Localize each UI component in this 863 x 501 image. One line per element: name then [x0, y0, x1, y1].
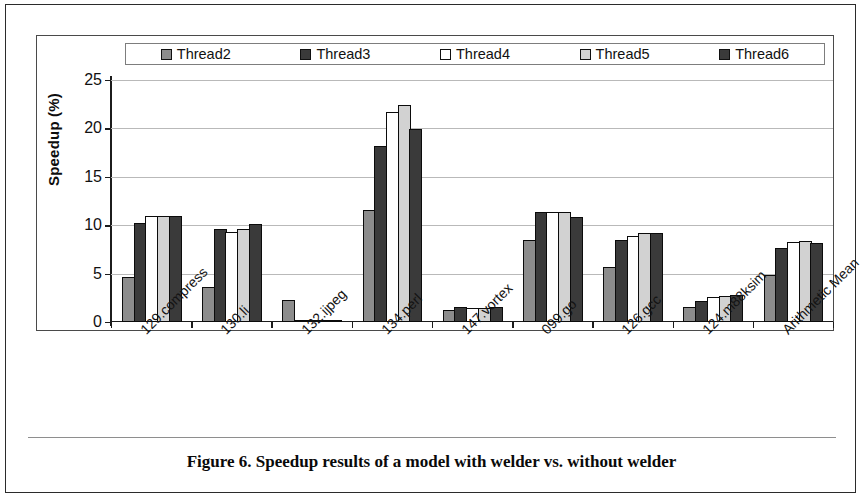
y-tick-label: 0 — [93, 313, 102, 331]
legend-item-thread6[interactable]: Thread6 — [719, 47, 789, 62]
bar-group — [512, 80, 592, 322]
y-tick-label: 15 — [84, 168, 102, 186]
y-tick-label: 5 — [93, 265, 102, 283]
legend-swatch-icon — [719, 49, 730, 60]
x-tick-mark — [833, 322, 834, 328]
legend-label: Thread5 — [596, 47, 650, 62]
legend-label: Thread6 — [735, 47, 789, 62]
caption-divider — [28, 437, 836, 438]
legend-item-thread5[interactable]: Thread5 — [580, 47, 650, 62]
legend-item-thread2[interactable]: Thread2 — [161, 47, 231, 62]
bar-group — [191, 80, 271, 322]
legend-label: Thread2 — [177, 47, 231, 62]
chart-container: Thread2Thread3Thread4Thread5Thread6 Spee… — [36, 35, 834, 331]
figure-caption: Figure 6. Speedup results of a model wit… — [6, 452, 857, 472]
bars-layer — [111, 80, 833, 322]
legend-swatch-icon — [440, 49, 451, 60]
y-tick-label: 20 — [84, 119, 102, 137]
legend-swatch-icon — [161, 49, 172, 60]
bar[interactable] — [282, 300, 295, 322]
chart-legend: Thread2Thread3Thread4Thread5Thread6 — [125, 43, 825, 65]
y-axis-title: Speedup (%) — [45, 93, 62, 186]
plot-area: 0510152025 — [111, 80, 833, 322]
legend-swatch-icon — [580, 49, 591, 60]
x-axis-labels: 129.compress130.li132.ijpeg134.perl147.v… — [111, 326, 833, 436]
bar[interactable] — [329, 320, 342, 322]
legend-label: Thread3 — [316, 47, 370, 62]
legend-item-thread3[interactable]: Thread3 — [300, 47, 370, 62]
y-tick-label: 10 — [84, 216, 102, 234]
bar[interactable] — [249, 224, 262, 322]
legend-swatch-icon — [300, 49, 311, 60]
bar-group — [271, 80, 351, 322]
bar-group — [352, 80, 432, 322]
bar-group — [592, 80, 672, 322]
figure-page-frame: Thread2Thread3Thread4Thread5Thread6 Spee… — [5, 4, 856, 493]
y-tick-label: 25 — [84, 71, 102, 89]
legend-label: Thread4 — [456, 47, 510, 62]
legend-item-thread4[interactable]: Thread4 — [440, 47, 510, 62]
